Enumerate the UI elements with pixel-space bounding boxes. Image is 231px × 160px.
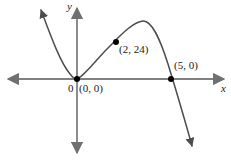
graph-figure: 0 (0, 0) (2, 24) (5, 0) x y (0, 0, 231, 160)
graph-canvas (0, 0, 231, 160)
point-5-0-marker (168, 76, 174, 82)
origin-zero-label: 0 (68, 83, 74, 94)
y-axis-label: y (67, 1, 72, 12)
x-axis-label: x (221, 83, 226, 94)
point-2-24-label: (2, 24) (119, 44, 148, 55)
point-5-0-label: (5, 0) (174, 60, 198, 71)
point-0-0-label: (0, 0) (79, 83, 103, 94)
